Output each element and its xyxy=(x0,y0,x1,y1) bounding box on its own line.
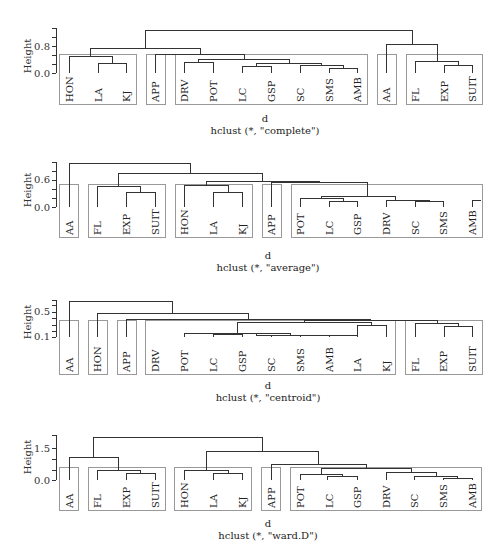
leaf-labels: AA HON APP DRV POT LC GSP SC SMS AMB LA … xyxy=(64,346,478,373)
leaf-label: EXP xyxy=(439,81,450,102)
leaf-label: LA xyxy=(352,357,363,372)
y-tick-label: 1.5 xyxy=(34,443,50,454)
leaf-label: AA xyxy=(64,357,75,373)
leaf-label: FL xyxy=(92,221,103,235)
leaf-label: HON xyxy=(64,76,75,102)
leaf-label: SUIT xyxy=(467,76,478,102)
leaf-label: EXP xyxy=(121,487,132,508)
leaf-label: AMB xyxy=(467,210,478,236)
leaf-label: FL xyxy=(410,358,421,372)
leaf-label: HON xyxy=(92,346,103,372)
y-axis-label: Height xyxy=(22,173,33,208)
y-tick-label: 0.5 xyxy=(34,306,50,317)
leaf-label: LC xyxy=(324,493,335,508)
leaf-label: SC xyxy=(410,220,421,235)
leaf-label: SUIT xyxy=(467,346,478,372)
leaf-label: DRV xyxy=(179,79,190,102)
leaf-label: FL xyxy=(92,494,103,508)
panel-average: Height 0.6 0.0 xyxy=(22,162,482,273)
leaf-label: FL xyxy=(410,88,421,102)
panel-title: hclust (*, "ward.D") xyxy=(218,530,317,541)
leaf-label: SUIT xyxy=(150,482,161,508)
leaf-label: APP xyxy=(121,351,132,373)
dendrogram-branches xyxy=(69,301,472,337)
leaf-label: KJ xyxy=(237,224,248,235)
leaf-label: LC xyxy=(324,220,335,235)
leaf-label: AA xyxy=(64,493,75,509)
leaf-label: DRV xyxy=(150,349,161,372)
y-tick-label: 0.1 xyxy=(34,331,50,342)
leaf-label: EXP xyxy=(121,214,132,235)
leaf-label: DRV xyxy=(381,212,392,235)
leaf-label: GSP xyxy=(352,486,363,508)
leaf-label: POT xyxy=(179,350,190,372)
dendrogram-branches xyxy=(69,163,481,207)
leaf-label: POT xyxy=(295,213,306,235)
leaf-label: KJ xyxy=(121,91,132,102)
y-tick-label: 0.0 xyxy=(34,202,50,213)
leaf-label: SUIT xyxy=(150,209,161,235)
y-axis-label: Height xyxy=(22,440,33,475)
leaf-label: AMB xyxy=(467,483,478,509)
dendrogram-figure: Height 0.8 0.0 xyxy=(0,0,502,555)
leaf-label: SC xyxy=(295,87,306,102)
leaf-label: SC xyxy=(266,357,277,372)
leaf-label: APP xyxy=(266,487,277,509)
y-tick-label: 0.6 xyxy=(34,174,50,185)
leaf-label: GSP xyxy=(266,80,277,102)
panel-title: hclust (*, "average") xyxy=(217,262,320,273)
dendrogram-branches xyxy=(69,30,472,73)
leaf-label: SMS xyxy=(295,348,306,372)
leaf-labels: HON LA KJ APP DRV POT LC GSP SC SMS AMB … xyxy=(64,76,478,103)
y-tick-label: 0.8 xyxy=(34,41,50,52)
leaf-label: AA xyxy=(381,87,392,103)
leaf-label: HON xyxy=(179,482,190,508)
leaf-label: AMB xyxy=(352,77,363,103)
leaf-label: SMS xyxy=(438,484,449,508)
leaf-label: APP xyxy=(266,214,277,236)
leaf-label: APP xyxy=(150,81,161,103)
leaf-label: LC xyxy=(237,87,248,102)
leaf-label: LA xyxy=(208,493,219,508)
leaf-label: LA xyxy=(93,87,104,102)
leaf-label: GSP xyxy=(352,213,363,235)
leaf-label: KJ xyxy=(237,497,248,508)
leaf-label: SMS xyxy=(438,211,449,235)
leaf-label: GSP xyxy=(237,350,248,372)
leaf-label: AA xyxy=(64,220,75,236)
y-tick-label: 0.0 xyxy=(34,475,50,486)
leaf-label: POT xyxy=(208,80,219,102)
panel-title: hclust (*, "complete") xyxy=(211,125,320,136)
leaf-label: SMS xyxy=(324,78,335,102)
leaf-label: HON xyxy=(179,209,190,235)
leaf-label: EXP xyxy=(438,351,449,372)
x-axis-label: d xyxy=(265,518,272,529)
leaf-label: SC xyxy=(409,493,420,508)
leaf-labels: AA FL EXP SUIT HON LA KJ APP POT LC GSP … xyxy=(64,482,478,509)
panel-complete: Height 0.8 0.0 xyxy=(22,28,482,136)
dendrogram-branches xyxy=(69,437,472,480)
panel-centroid: Height 0.5 0.1 xyxy=(22,300,482,403)
x-axis-label: d xyxy=(262,113,269,124)
panel-ward: Height 1.5 0.0 xyxy=(22,435,481,541)
y-axis-label: Height xyxy=(22,39,33,74)
x-axis-label: d xyxy=(265,380,272,391)
leaf-label: LA xyxy=(208,220,219,235)
x-axis-label: d xyxy=(265,250,272,261)
leaf-label: LC xyxy=(208,357,219,372)
leaf-label: KJ xyxy=(381,361,392,372)
panel-title: hclust (*, "centroid") xyxy=(216,392,321,403)
leaf-labels: AA FL EXP SUIT HON LA KJ APP POT LC GSP … xyxy=(64,209,478,236)
y-axis-label: Height xyxy=(22,305,33,340)
leaf-label: DRV xyxy=(381,485,392,508)
leaf-label: AMB xyxy=(324,347,335,373)
y-tick-label: 0.0 xyxy=(34,68,50,79)
leaf-label: POT xyxy=(295,486,306,508)
